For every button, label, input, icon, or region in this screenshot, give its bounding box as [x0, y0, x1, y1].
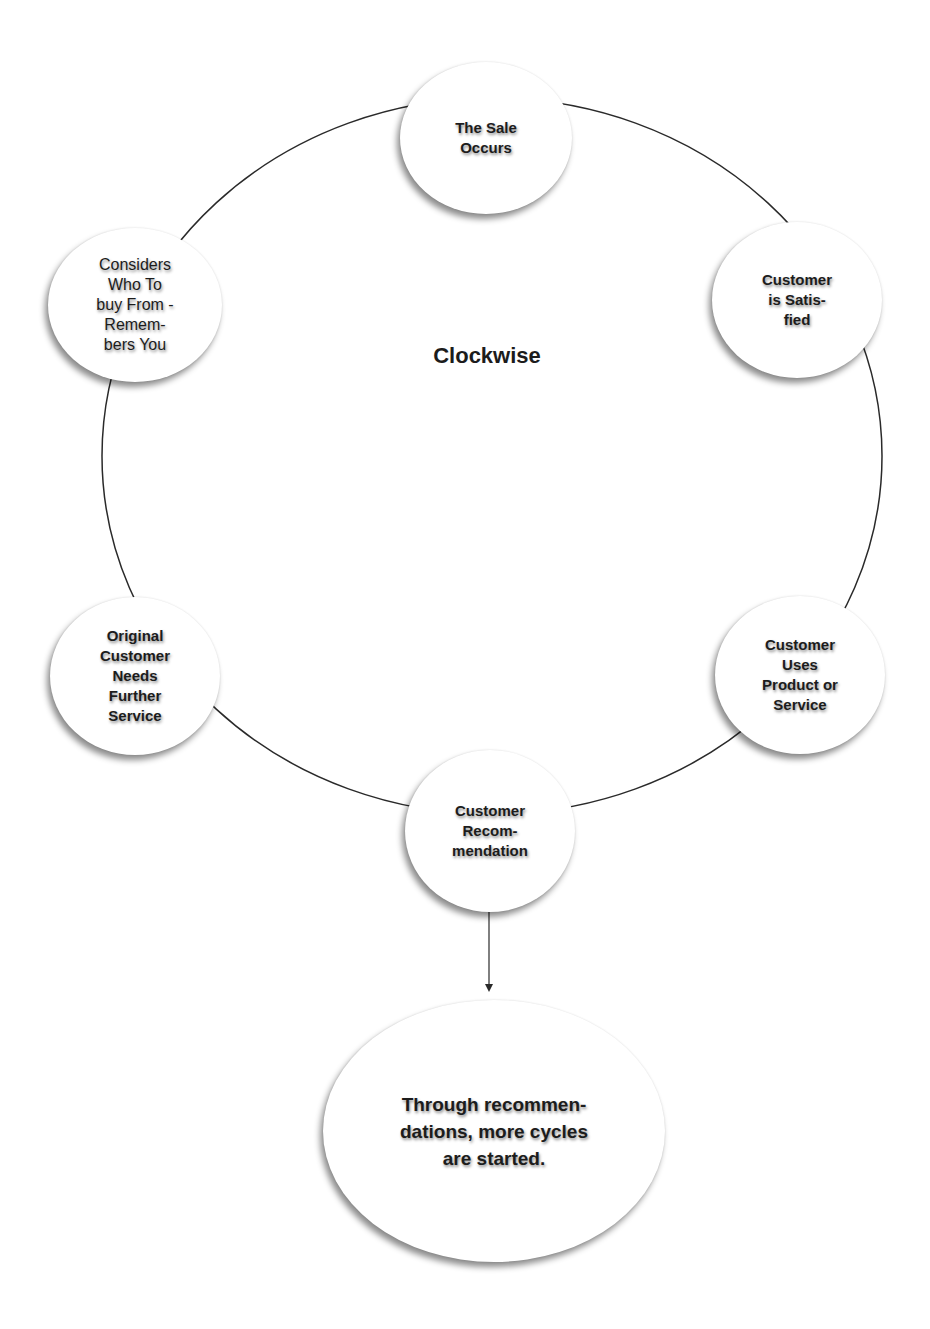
- node-customer-recommendation: Customer Recom- mendation: [405, 750, 575, 912]
- diagram-title: Clockwise: [392, 343, 582, 369]
- node-label: Considers Who To buy From - Remem- bers …: [96, 255, 173, 355]
- outcome-label: Through recommen- dations, more cycles a…: [400, 1091, 588, 1172]
- arrow-head-icon: [485, 984, 493, 992]
- node-considers-who-to-buy-from: Considers Who To buy From - Remem- bers …: [48, 228, 222, 382]
- node-outcome-more-cycles: Through recommen- dations, more cycles a…: [323, 1000, 665, 1262]
- node-label: The Sale Occurs: [455, 118, 517, 158]
- node-original-customer-needs-service: Original Customer Needs Further Service: [50, 597, 220, 755]
- node-the-sale-occurs: The Sale Occurs: [400, 62, 572, 214]
- node-customer-is-satisfied: Customer is Satis- fied: [712, 222, 882, 378]
- sales-cycle-diagram: Clockwise The Sale Occurs Customer is Sa…: [0, 0, 930, 1329]
- node-label: Customer Uses Product or Service: [762, 635, 838, 715]
- node-label: Customer Recom- mendation: [452, 801, 528, 861]
- node-label: Original Customer Needs Further Service: [100, 626, 170, 726]
- node-label: Customer is Satis- fied: [762, 270, 832, 330]
- node-customer-uses-product: Customer Uses Product or Service: [715, 596, 885, 754]
